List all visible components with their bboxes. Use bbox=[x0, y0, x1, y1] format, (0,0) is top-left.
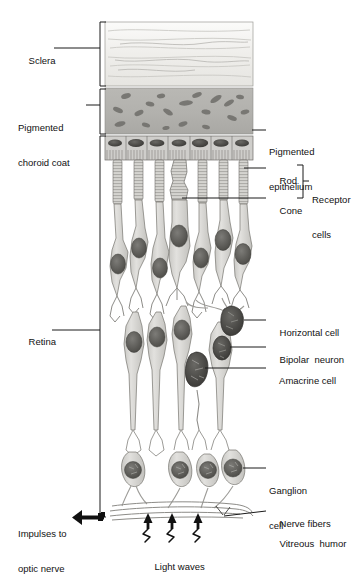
label-impulses-to-optic-nerve: Impulses to optic nerve bbox=[18, 505, 67, 578]
label-light-waves-text: Light waves bbox=[155, 561, 205, 572]
label-receptor-cells: Receptor cells bbox=[312, 171, 351, 263]
pigmented-epithelium-layer bbox=[105, 136, 253, 160]
horizontal-cell-body bbox=[221, 306, 244, 336]
label-vitreous-humor-text: Vitreous humor bbox=[280, 538, 347, 549]
label-impulses-line1: Impulses to bbox=[18, 528, 67, 540]
sclera-layer bbox=[105, 22, 253, 86]
label-cone-text: Cone bbox=[280, 205, 303, 216]
label-rod-text: Rod bbox=[280, 175, 297, 186]
ganglion-axons bbox=[122, 486, 233, 508]
label-cone: Cone bbox=[269, 193, 302, 228]
label-horizontal-cell-text: Horizontal cell bbox=[280, 327, 340, 338]
label-ganglion-line1: Ganglion bbox=[269, 485, 307, 497]
label-choroid-line1: Pigmented bbox=[18, 122, 70, 134]
label-pigmented-choroid-coat: Pigmented choroid coat bbox=[18, 99, 70, 191]
label-vitreous-humor: Vitreous humor bbox=[269, 526, 346, 561]
label-retina: Retina bbox=[18, 324, 56, 359]
label-retina-text: Retina bbox=[29, 336, 56, 347]
label-receptor-line2: cells bbox=[312, 229, 351, 241]
label-impulses-line2: optic nerve bbox=[18, 563, 67, 575]
choroid-layer bbox=[105, 88, 253, 134]
label-receptor-line1: Receptor bbox=[312, 194, 351, 206]
amacrine-cell-body bbox=[185, 352, 208, 430]
label-sclera: Sclera bbox=[18, 43, 56, 78]
label-choroid-line2: choroid coat bbox=[18, 157, 70, 169]
label-light-waves: Light waves bbox=[144, 549, 205, 578]
bipolar-neuron-body bbox=[213, 336, 231, 360]
label-sclera-text: Sclera bbox=[29, 55, 56, 66]
label-amacrine-cell-text: Amacrine cell bbox=[279, 375, 336, 386]
label-amacrine-cell: Amacrine cell bbox=[269, 363, 336, 398]
label-pig-epi-line1: Pigmented bbox=[269, 146, 314, 158]
cone-outer-segment bbox=[170, 160, 188, 200]
nerve-fiber-layer bbox=[110, 502, 253, 520]
bracket-retina bbox=[100, 136, 106, 517]
